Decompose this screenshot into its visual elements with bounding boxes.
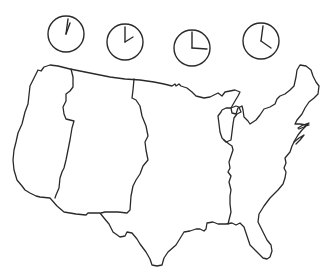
us-map: [0, 0, 328, 274]
mountain-central-boundary: [101, 79, 148, 213]
time-zone-diagram: United States time zones: [0, 0, 328, 274]
us-outline: [13, 65, 319, 266]
clock-central: [174, 30, 210, 66]
clock-eastern: [243, 23, 279, 59]
clock-mountain: [107, 24, 143, 60]
pacific-mountain-boundary: [55, 69, 74, 198]
central-eastern-boundary: [224, 140, 233, 224]
hour-hand-icon: [192, 48, 207, 49]
clock-pacific: [48, 16, 84, 52]
